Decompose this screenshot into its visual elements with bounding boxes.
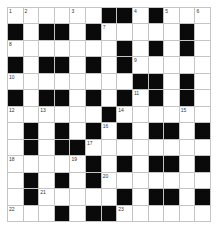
crossword-cell[interactable] [8,189,23,204]
crossword-cell[interactable] [117,74,132,89]
crossword-cell[interactable] [164,74,179,89]
crossword-cell[interactable] [195,206,210,221]
crossword-cell[interactable] [164,173,179,188]
crossword-cell[interactable] [133,173,148,188]
crossword-cell[interactable]: 7 [102,24,117,39]
crossword-cell[interactable]: 18 [8,156,23,171]
crossword-cell[interactable]: 3 [70,8,85,23]
crossword-cell[interactable] [195,74,210,89]
crossword-cell[interactable]: 6 [195,8,210,23]
crossword-cell[interactable] [70,107,85,122]
crossword-cell[interactable] [70,173,85,188]
crossword-cell[interactable]: 19 [70,156,85,171]
crossword-cell[interactable] [195,140,210,155]
crossword-cell[interactable] [55,8,70,23]
crossword-cell[interactable] [133,123,148,138]
crossword-cell[interactable] [8,173,23,188]
crossword-cell[interactable] [70,74,85,89]
crossword-cell[interactable] [86,74,101,89]
crossword-cell[interactable] [195,90,210,105]
crossword-cell[interactable] [55,74,70,89]
crossword-cell[interactable] [149,24,164,39]
crossword-cell[interactable] [70,57,85,72]
crossword-cell[interactable] [39,173,54,188]
crossword-cell[interactable] [24,74,39,89]
crossword-cell[interactable] [102,90,117,105]
crossword-cell[interactable] [180,156,195,171]
crossword-cell[interactable] [39,8,54,23]
crossword-cell[interactable] [180,173,195,188]
crossword-cell[interactable] [102,140,117,155]
crossword-cell[interactable] [195,107,210,122]
crossword-cell[interactable] [102,57,117,72]
crossword-cell[interactable]: 10 [8,74,23,89]
crossword-cell[interactable] [70,123,85,138]
crossword-cell[interactable]: 4 [133,8,148,23]
crossword-cell[interactable]: 1 [8,8,23,23]
crossword-cell[interactable] [180,189,195,204]
crossword-cell[interactable] [55,189,70,204]
crossword-cell[interactable] [55,107,70,122]
crossword-cell[interactable]: 21 [39,189,54,204]
crossword-cell[interactable] [24,156,39,171]
crossword-cell[interactable] [149,57,164,72]
crossword-cell[interactable] [133,24,148,39]
crossword-cell[interactable] [133,156,148,171]
crossword-cell[interactable]: 5 [164,8,179,23]
crossword-cell[interactable]: 12 [8,107,23,122]
crossword-cell[interactable] [24,107,39,122]
crossword-cell[interactable] [180,123,195,138]
crossword-cell[interactable] [102,74,117,89]
crossword-cell[interactable] [86,8,101,23]
crossword-cell[interactable] [117,140,132,155]
crossword-cell[interactable] [133,140,148,155]
crossword-cell[interactable] [164,107,179,122]
crossword-cell[interactable] [24,57,39,72]
crossword-cell[interactable]: 8 [8,41,23,56]
crossword-cell[interactable] [70,41,85,56]
crossword-cell[interactable] [55,41,70,56]
crossword-cell[interactable] [8,140,23,155]
crossword-cell[interactable] [164,41,179,56]
crossword-cell[interactable] [164,206,179,221]
crossword-cell[interactable] [164,90,179,105]
crossword-cell[interactable]: 15 [180,107,195,122]
crossword-cell[interactable] [102,41,117,56]
crossword-cell[interactable]: 22 [8,206,23,221]
crossword-cell[interactable] [133,41,148,56]
crossword-cell[interactable] [195,57,210,72]
crossword-cell[interactable] [133,107,148,122]
crossword-cell[interactable] [39,123,54,138]
crossword-cell[interactable] [39,41,54,56]
crossword-cell[interactable] [180,206,195,221]
crossword-cell[interactable] [117,24,132,39]
crossword-cell[interactable] [86,41,101,56]
crossword-cell[interactable] [149,107,164,122]
crossword-cell[interactable] [55,156,70,171]
crossword-cell[interactable] [164,140,179,155]
crossword-cell[interactable] [102,189,117,204]
crossword-cell[interactable] [70,24,85,39]
crossword-cell[interactable] [164,24,179,39]
crossword-cell[interactable] [86,189,101,204]
crossword-cell[interactable]: 23 [117,206,132,221]
crossword-cell[interactable] [149,206,164,221]
crossword-cell[interactable] [180,57,195,72]
crossword-cell[interactable] [24,24,39,39]
crossword-cell[interactable]: 20 [102,173,117,188]
crossword-cell[interactable] [195,41,210,56]
crossword-cell[interactable] [70,189,85,204]
crossword-cell[interactable] [195,173,210,188]
crossword-cell[interactable]: 13 [39,107,54,122]
crossword-cell[interactable]: 9 [133,57,148,72]
crossword-cell[interactable] [117,173,132,188]
crossword-cell[interactable] [70,90,85,105]
crossword-cell[interactable]: 17 [86,140,101,155]
crossword-cell[interactable] [149,173,164,188]
crossword-cell[interactable] [133,189,148,204]
crossword-cell[interactable] [180,8,195,23]
crossword-cell[interactable]: 16 [102,123,117,138]
crossword-cell[interactable] [39,74,54,89]
crossword-cell[interactable] [39,156,54,171]
crossword-cell[interactable] [149,140,164,155]
